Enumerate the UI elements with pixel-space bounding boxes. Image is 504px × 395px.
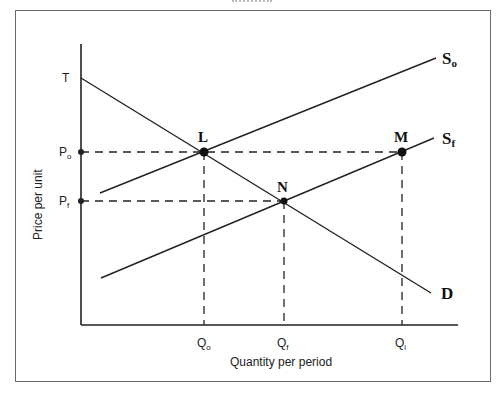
x-tick-qf: Qf [277,336,289,352]
y-tick-pf: Pf [59,194,70,210]
supply-original-label: So [442,49,457,69]
point-n-label: N [277,179,288,195]
point-m-label: M [394,129,408,145]
pf-axis-dot [78,198,84,204]
x-tick-qo: Qo [197,336,211,352]
x-axis-title: Quantity per period [230,355,332,369]
po-axis-dot [78,149,84,155]
y-tick-t: T [62,71,70,85]
point-l-label: L [198,129,208,145]
supply-original-curve [100,58,436,193]
y-tick-po: Po [59,145,72,161]
point-n-marker [281,198,288,205]
point-m-marker [398,148,407,157]
demand-curve [81,78,431,293]
demand-label: D [441,284,453,303]
point-l-marker [200,148,209,157]
supply-final-curve [101,138,434,278]
supply-final-label: Sf [442,129,455,149]
y-axis-title: Price per unit [31,169,45,240]
supply-demand-diagram: L M N So Sf D T Po Pf Qo Qf Qi Quantity … [0,0,504,395]
x-tick-qi: Qi [395,336,406,352]
